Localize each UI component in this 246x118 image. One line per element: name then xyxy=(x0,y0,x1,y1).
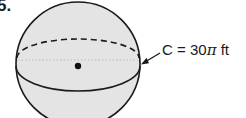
label-pi: π xyxy=(207,41,217,59)
sphere-figure xyxy=(0,0,246,118)
circumference-label: C = 30π ft xyxy=(162,41,229,59)
label-equals: = xyxy=(177,41,186,58)
label-variable: C xyxy=(162,41,173,58)
label-coefficient: 30 xyxy=(190,41,207,58)
label-unit: ft xyxy=(221,41,229,58)
center-point xyxy=(75,63,81,69)
arrow-head-icon xyxy=(141,58,149,65)
